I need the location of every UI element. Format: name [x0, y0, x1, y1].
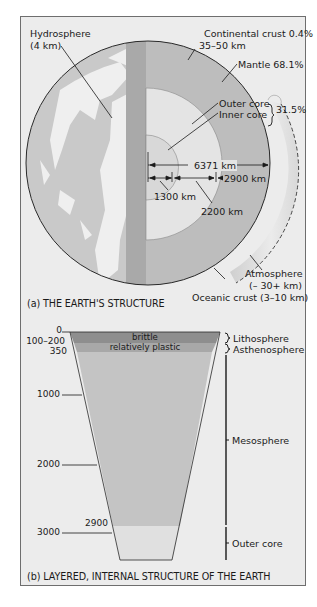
- mantle-depth-label: 2900 km: [223, 173, 267, 184]
- brittle-band-label: brittle: [74, 332, 216, 342]
- atmosphere-thickness-label: (– 30+ km): [249, 280, 302, 291]
- depth-tick-2900: 2900: [70, 518, 108, 528]
- outer-core-label: Outer core: [219, 98, 270, 109]
- caption-a: (a) THE EARTH'S STRUCTURE: [27, 298, 165, 309]
- inner-core-label: Inner core: [219, 109, 267, 120]
- depth-tick-2000: 2000: [20, 459, 60, 469]
- continental-crust-label: Continental crust 0.4%: [204, 28, 313, 39]
- hydrosphere-thickness-label: (4 km): [30, 40, 61, 51]
- asthenosphere-label: Asthenosphere: [233, 344, 304, 355]
- continental-crust-thickness-label: 35–50 km: [199, 40, 246, 51]
- depth-tick-350: 350: [20, 346, 67, 356]
- core-percent-label: 31.5%: [276, 104, 306, 115]
- inner-core-radius-label: 1300 km: [154, 191, 196, 202]
- outer-core-thickness-label: 2200 km: [201, 206, 243, 217]
- layer-braces: [225, 333, 230, 560]
- depth-tick-100-200: 100–200: [20, 336, 65, 346]
- caption-b: (b) LAYERED, INTERNAL STRUCTURE OF THE E…: [27, 571, 270, 582]
- outer-core-layer-label: Outer core: [232, 538, 283, 549]
- atmosphere-label: Atmosphere: [245, 268, 303, 279]
- radius-label: 6371 km: [193, 160, 237, 171]
- mantle-label: Mantle 68.1%: [238, 59, 303, 70]
- depth-tick-3000: 3000: [20, 527, 60, 537]
- hydrosphere-label: Hydrosphere: [30, 28, 91, 39]
- lithosphere-label: Lithosphere: [233, 333, 289, 344]
- depth-tick-1000: 1000: [20, 389, 60, 399]
- depth-tick-0: 0: [20, 325, 62, 335]
- plastic-band-label: relatively plastic: [77, 342, 213, 352]
- oceanic-crust-label: Oceanic crust (3–10 km): [192, 292, 308, 303]
- mesosphere-label: Mesosphere: [232, 435, 289, 446]
